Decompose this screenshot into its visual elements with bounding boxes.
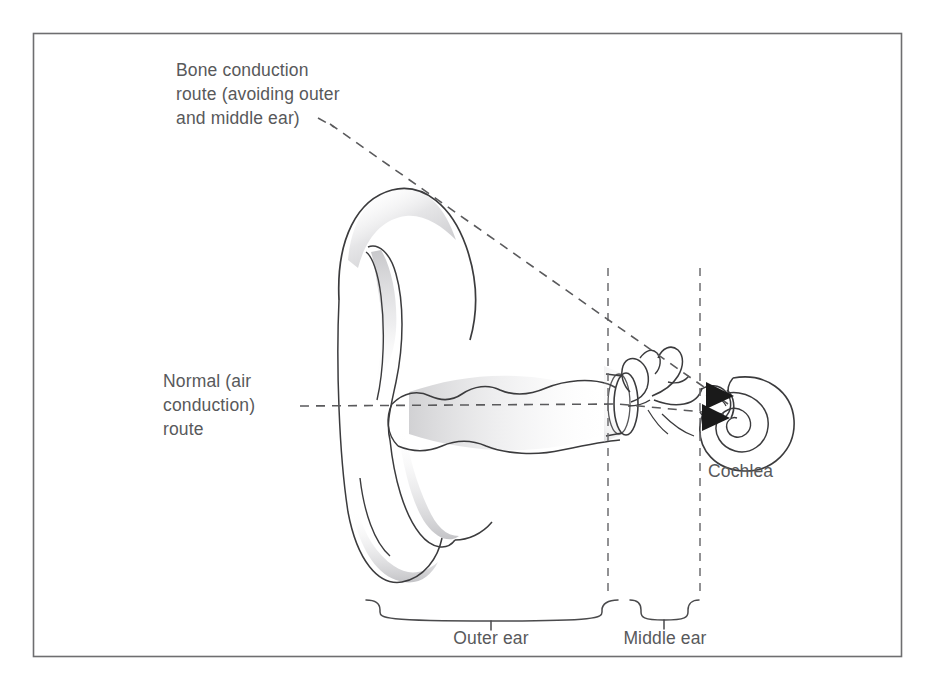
ear-canal-shading <box>409 376 614 451</box>
middle-ear-label: Middle ear <box>623 628 706 648</box>
ear-anatomy-figure: Bone conduction route (avoiding outer an… <box>0 0 934 685</box>
figure-border <box>34 34 902 657</box>
bone-conduction-label-line2: route (avoiding outer <box>176 84 340 104</box>
diagram-canvas: Bone conduction route (avoiding outer an… <box>0 0 934 685</box>
bone-conduction-label-line3: and middle ear) <box>176 108 300 128</box>
air-conduction-label-line2: conduction) <box>163 395 255 415</box>
air-conduction-label-line3: route <box>163 419 204 439</box>
outer-ear-label: Outer ear <box>453 628 528 648</box>
air-conduction-label-line1: Normal (air <box>163 371 251 391</box>
bone-conduction-label-line1: Bone conduction <box>176 60 309 80</box>
cochlea-label: Cochlea <box>708 461 773 481</box>
